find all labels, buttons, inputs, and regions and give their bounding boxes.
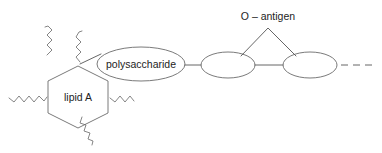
fatty-acid-chain-left-horizontal-icon xyxy=(9,96,47,102)
link-lipid-a-to-polysaccharide xyxy=(80,54,101,64)
core-unit-2-ellipse xyxy=(283,52,337,78)
lipid-a-label: lipid A xyxy=(64,91,92,103)
o-antigen-triangle xyxy=(241,28,296,56)
lps-diagram-canvas: lipid A polysaccharide O – antigen xyxy=(0,0,382,153)
o-antigen-label: O – antigen xyxy=(241,10,295,22)
core-unit-1-ellipse xyxy=(201,52,255,78)
lps-diagram: lipid A polysaccharide O – antigen xyxy=(0,0,382,153)
fatty-acid-chain-top-center-icon xyxy=(76,31,82,62)
fatty-acid-chain-upper-left-icon xyxy=(45,26,52,55)
fatty-acid-chain-right-horizontal-icon xyxy=(110,96,134,102)
polysaccharide-label: polysaccharide xyxy=(106,58,176,70)
